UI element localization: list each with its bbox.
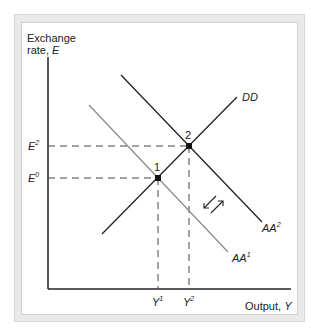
dd-label: DD bbox=[242, 91, 258, 103]
e2-label: E2 bbox=[28, 139, 39, 152]
x-axis-label: Output, Y bbox=[245, 300, 292, 312]
equilibrium-point-2 bbox=[186, 143, 192, 149]
y-axis-label-line2: rate, E bbox=[27, 44, 60, 56]
point-1-label: 1 bbox=[154, 161, 160, 173]
point-2-label: 2 bbox=[185, 129, 191, 141]
equilibrium-point-1 bbox=[155, 175, 161, 181]
aa2-label: AA2 bbox=[261, 221, 281, 234]
y2-label: Y2 bbox=[183, 295, 194, 308]
dd-aa-diagram: Exchange rate, E Output, Y 1 2 DD AA2 AA… bbox=[0, 0, 320, 330]
dd-curve bbox=[102, 97, 237, 234]
y-axis-label-line1: Exchange bbox=[27, 32, 76, 44]
shift-arrows-icon bbox=[204, 196, 223, 213]
aa1-label: AA1 bbox=[231, 251, 251, 264]
e0-label: E0 bbox=[28, 171, 39, 184]
y1-label: Y1 bbox=[152, 295, 163, 308]
